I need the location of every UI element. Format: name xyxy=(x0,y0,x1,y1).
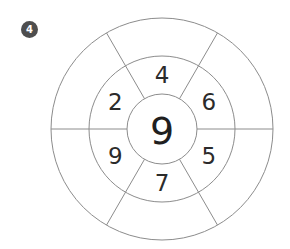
middle-ring-value-upper-right: 6 xyxy=(201,89,216,115)
middle-ring-value-bottom: 7 xyxy=(155,170,170,196)
divider-lower-right xyxy=(180,159,218,225)
divider-lower-left xyxy=(107,159,145,225)
middle-ring-value-lower-left: 9 xyxy=(108,143,123,169)
middle-ring-value-top: 4 xyxy=(155,62,170,88)
number-wheel: 4 6 5 7 9 2 9 xyxy=(0,0,290,249)
middle-ring-value-lower-right: 5 xyxy=(201,143,216,169)
middle-ring-value-upper-left: 2 xyxy=(108,89,123,115)
worksheet-item: 4 4 6 5 7 9 2 9 xyxy=(0,0,290,249)
center-value: 9 xyxy=(150,109,174,153)
